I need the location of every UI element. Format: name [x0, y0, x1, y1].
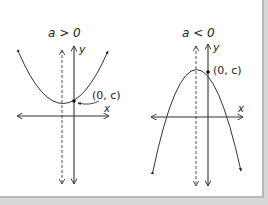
left-point-0-c	[72, 99, 76, 103]
right-panel: a < 0 y x (0, c)	[151, 26, 244, 186]
left-panel: a > 0 y x (0, c)	[17, 26, 121, 184]
parabola-diagram: a > 0 y x (0, c) a < 0 y x (0, c)	[0, 0, 268, 205]
right-point-0-c	[206, 70, 210, 74]
right-point-label: (0, c)	[213, 64, 242, 77]
left-x-label: x	[103, 103, 110, 114]
right-parabola	[153, 70, 241, 172]
left-condition-label: a > 0	[48, 26, 81, 40]
right-y-label: y	[212, 41, 220, 54]
left-point-label: (0, c)	[92, 89, 121, 102]
right-x-label: x	[237, 103, 244, 114]
right-condition-label: a < 0	[182, 26, 215, 40]
left-y-label: y	[78, 43, 86, 56]
